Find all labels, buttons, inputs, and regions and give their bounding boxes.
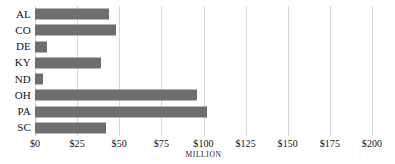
bar-de: [35, 41, 47, 52]
bar-row: OH: [0, 87, 395, 103]
bar-al: [35, 9, 109, 20]
bar-row: PA: [0, 104, 395, 120]
category-label-co: CO: [0, 25, 31, 36]
x-tick-label: $50: [112, 138, 127, 150]
bar-row: SC: [0, 120, 395, 136]
x-tick-label: $25: [69, 138, 84, 150]
bar-ky: [35, 57, 101, 68]
category-label-nd: ND: [0, 74, 31, 85]
bar-row: AL: [0, 6, 395, 22]
bar-sc: [35, 122, 106, 133]
bar-pa: [35, 106, 207, 117]
bar-row: CO: [0, 22, 395, 38]
category-label-sc: SC: [0, 122, 31, 133]
bar-oh: [35, 90, 197, 101]
bar-rows: ALCODEKYNDOHPASC: [0, 6, 395, 136]
x-axis-unit-label: MILLION: [186, 150, 222, 159]
category-label-al: AL: [0, 9, 31, 20]
bar-row: KY: [0, 55, 395, 71]
x-tick-label: $0: [30, 138, 40, 150]
bar-row: DE: [0, 39, 395, 55]
bar-row: ND: [0, 71, 395, 87]
x-tick-label: $150: [278, 138, 298, 150]
x-tick-label: $125: [235, 138, 255, 150]
category-label-ky: KY: [0, 57, 31, 68]
x-tick-label: $75: [154, 138, 169, 150]
x-tick-label: $200: [362, 138, 382, 150]
category-label-de: DE: [0, 41, 31, 52]
x-tick-label: $100: [193, 138, 213, 150]
bar-co: [35, 25, 116, 36]
bar-nd: [35, 74, 43, 85]
category-label-oh: OH: [0, 90, 31, 101]
x-tick-label: $175: [320, 138, 340, 150]
bar-chart: ALCODEKYNDOHPASC $0$25$50$75$100$125$150…: [0, 0, 395, 164]
category-label-pa: PA: [0, 106, 31, 117]
